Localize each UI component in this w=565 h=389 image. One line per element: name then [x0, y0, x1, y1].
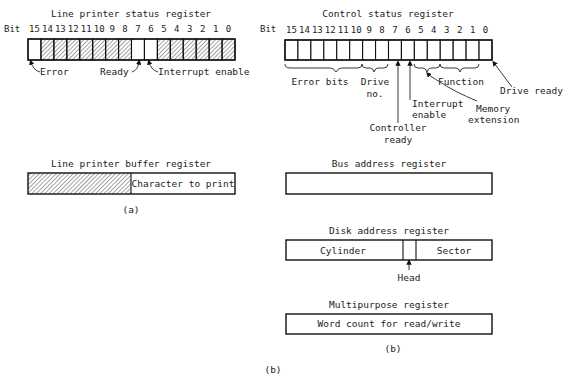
error-bits-label: Error bits	[291, 76, 348, 87]
lp-bit-cell-0	[222, 39, 235, 60]
lp-bit-cell-1	[209, 39, 222, 60]
csr-bit-number: 1	[470, 25, 475, 35]
lp-bit-cell-13	[54, 39, 67, 60]
csr-bit-label: Bit	[260, 24, 276, 34]
lp-bit-number: 2	[200, 24, 205, 34]
lp-bit-number: 6	[148, 24, 153, 34]
bus-address-title: Bus address register	[332, 158, 447, 169]
csr-bit-cell-1	[466, 40, 479, 60]
error-label: Error	[40, 66, 69, 77]
lp-bit-number: 5	[161, 24, 166, 34]
lp-bit-number: 0	[226, 24, 231, 34]
lp-bit-cell-3	[183, 39, 196, 60]
interrupt-enable-arrow	[149, 62, 158, 72]
csr-bit-number: 6	[405, 25, 410, 35]
lp-bit-numbers: 1514131211109876543210	[29, 24, 231, 34]
character-to-print-field: Character to print	[132, 178, 235, 189]
csr-interrupt-label-2: enable	[412, 109, 447, 120]
csr-bit-number: 11	[338, 25, 349, 35]
bus-address-frame	[286, 173, 492, 194]
disk-address-title: Disk address register	[329, 225, 449, 236]
csr-bit-number: 2	[457, 25, 462, 35]
lp-buffer-title: Line printer buffer register	[51, 158, 211, 169]
lp-bit-cell-12	[67, 39, 80, 60]
csr-bit-cell-14	[298, 40, 311, 60]
csr-bit-numbers: 1514131211109876543210	[286, 25, 488, 35]
ready-arrow	[132, 62, 139, 72]
lp-bit-number: 8	[122, 24, 127, 34]
csr-bit-cell-3	[440, 40, 453, 60]
csr-bit-cells	[285, 40, 492, 60]
lp-bit-cell-7	[132, 39, 145, 60]
lp-bit-cell-5	[157, 39, 170, 60]
lp-status-title: Line printer status register	[51, 8, 211, 19]
drive-ready-label: Drive ready	[500, 85, 563, 96]
lp-bit-cell-2	[196, 39, 209, 60]
lp-buffer-register: Line printer buffer register Character t…	[28, 158, 235, 215]
lp-status-register: Line printer status register Bit 1514131…	[4, 8, 250, 77]
bit-label: Bit	[4, 24, 20, 34]
cylinder-field: Cylinder	[320, 245, 366, 256]
csr-bit-cell-0	[479, 40, 492, 60]
function-brace	[440, 64, 479, 72]
memory-extension-label-2: extension	[468, 114, 519, 125]
lp-buffer-unused-hatched	[28, 173, 131, 194]
csr-bit-number: 4	[431, 25, 436, 35]
csr-interrupt-label-1: Interrupt	[412, 98, 463, 109]
csr-bit-cell-15	[285, 40, 298, 60]
lp-bit-number: 4	[174, 24, 179, 34]
csr-bit-cell-11	[337, 40, 350, 60]
controller-ready-label-2: ready	[384, 134, 413, 145]
lp-bit-cell-15	[28, 39, 41, 60]
csr-bit-cell-5	[414, 40, 427, 60]
multipurpose-register: Multipurpose register Word count for rea…	[286, 299, 492, 354]
csr-bit-cell-8	[376, 40, 389, 60]
interrupt-enable-label: Interrupt enable	[158, 66, 250, 77]
csr-bit-number: 14	[299, 25, 310, 35]
register-diagram: Line printer status register Bit 1514131…	[0, 0, 565, 389]
csr-bit-number: 5	[418, 25, 423, 35]
lp-bit-number: 11	[81, 24, 92, 34]
lp-bit-cell-9	[106, 39, 119, 60]
drive-no-label-2: no.	[366, 88, 383, 99]
controller-ready-label-1: Controller	[369, 122, 426, 133]
bus-address-register: Bus address register	[286, 158, 492, 194]
csr-bit-number: 13	[312, 25, 323, 35]
csr-bit-number: 9	[366, 25, 371, 35]
lp-bit-cell-8	[119, 39, 132, 60]
csr-bit-number: 3	[444, 25, 449, 35]
drive-no-brace	[362, 64, 388, 72]
lp-bit-number: 13	[55, 24, 66, 34]
memory-extension-label-1: Memory	[476, 103, 511, 114]
lp-bit-number: 10	[94, 24, 105, 34]
caption-a: (a)	[122, 204, 139, 215]
head-label: Head	[398, 272, 421, 283]
lp-bit-cells	[28, 39, 235, 60]
lp-bit-number: 3	[187, 24, 192, 34]
lp-bit-number: 9	[109, 24, 114, 34]
csr-bit-cell-7	[389, 40, 402, 60]
drive-ready-arrow	[494, 63, 512, 87]
csr-bit-number: 12	[325, 25, 336, 35]
disk-address-register: Disk address register Cylinder Sector He…	[286, 225, 492, 283]
lp-bit-number: 7	[135, 24, 140, 34]
error-bits-brace	[285, 64, 362, 72]
memory-extension-brace	[414, 64, 440, 72]
lp-bit-cell-14	[41, 39, 54, 60]
csr-bit-cell-2	[453, 40, 466, 60]
lp-bit-number: 12	[68, 24, 79, 34]
csr-bit-number: 8	[379, 25, 384, 35]
error-arrow	[31, 62, 40, 72]
lp-bit-number: 14	[42, 24, 53, 34]
csr-title: Control status register	[322, 8, 454, 19]
lp-bit-cell-6	[144, 39, 157, 60]
csr-bit-cell-10	[350, 40, 363, 60]
csr-bit-cell-9	[363, 40, 376, 60]
lp-bit-cell-11	[80, 39, 93, 60]
csr-bit-cell-13	[311, 40, 324, 60]
csr-bit-number: 10	[351, 25, 362, 35]
lp-bit-cell-4	[170, 39, 183, 60]
csr-bit-number: 7	[392, 25, 397, 35]
caption-b: (b)	[384, 343, 401, 354]
csr-bit-number: 0	[483, 25, 488, 35]
